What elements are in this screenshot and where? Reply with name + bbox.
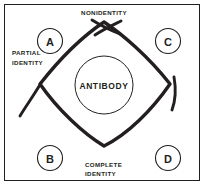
diagram-canvas: ANTIBODY A C B D NONIDENTITY PARTIAL IDE… [0, 0, 206, 187]
zone-label-complete-identity-line1: COMPLETE [85, 161, 122, 168]
zone-label-partial-identity-line1: PARTIAL [12, 49, 41, 56]
well-label-c: C [164, 36, 172, 48]
zone-label-complete-identity-line2: IDENTITY [85, 170, 117, 177]
zone-label-nonidentity: NONIDENTITY [81, 9, 127, 16]
well-label-b: B [46, 153, 54, 165]
antibody-well-label: ANTIBODY [79, 81, 128, 91]
immunodiffusion-figure: ANTIBODY A C B D NONIDENTITY PARTIAL IDE… [0, 0, 206, 187]
well-label-a: A [46, 36, 54, 48]
partial-identity-spur [20, 83, 41, 116]
zone-label-partial-identity-line2: IDENTITY [12, 59, 44, 66]
well-label-d: D [164, 153, 172, 165]
right-spur [172, 77, 175, 110]
